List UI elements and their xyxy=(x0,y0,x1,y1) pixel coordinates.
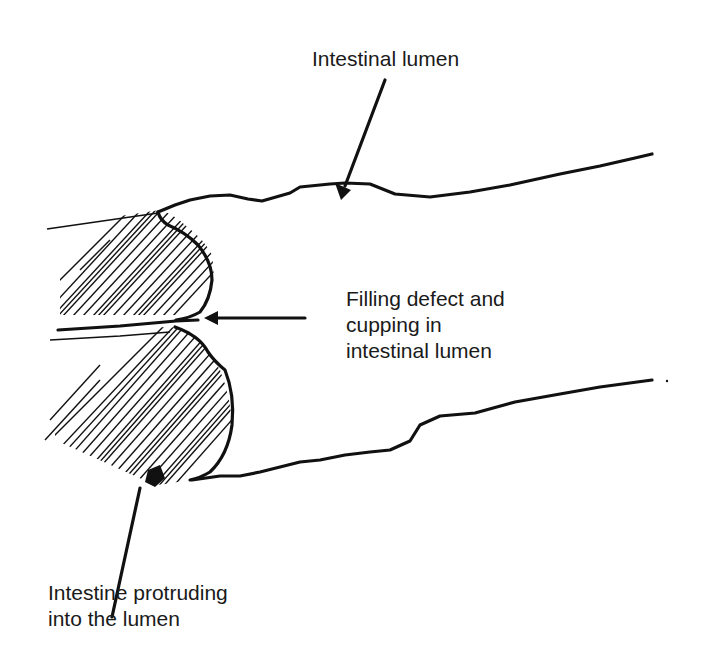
lower-hatch-extra xyxy=(50,365,100,420)
speck-mark xyxy=(666,380,668,382)
label-intestinal-lumen: Intestinal lumen xyxy=(312,46,459,72)
dense-shading-spot xyxy=(145,465,165,487)
lower-hatching xyxy=(20,320,320,490)
label-intestine-protruding: Intestine protruding into the lumen xyxy=(48,580,228,632)
defect-arrowhead-icon xyxy=(204,311,218,325)
lumen-arrow-shaft xyxy=(345,80,385,186)
upper-hatching xyxy=(20,200,280,330)
lower-intestinal-wall xyxy=(192,380,652,480)
label-filling-defect: Filling defect and cupping in intestinal… xyxy=(346,286,505,364)
lumen-arrowhead-icon xyxy=(335,183,351,200)
upper-intestinal-wall xyxy=(158,154,652,212)
